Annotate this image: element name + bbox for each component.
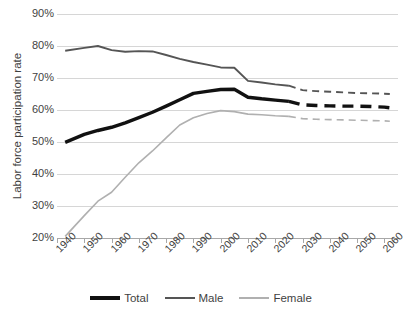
series-line-total — [65, 89, 289, 142]
legend-label: Female — [273, 292, 311, 304]
legend-swatch-male-icon — [165, 297, 195, 300]
plot-area — [57, 14, 398, 238]
y-axis-tick-label: 50% — [20, 136, 54, 147]
legend-swatch-female-icon — [239, 297, 269, 299]
series-projection-female — [289, 116, 390, 121]
y-axis-tick-label: 40% — [20, 168, 54, 179]
y-axis-tick-label: 80% — [20, 40, 54, 51]
legend-entry-male[interactable]: Male — [165, 292, 224, 304]
y-axis-tick-label: 90% — [20, 8, 54, 19]
series-projection-male — [289, 86, 390, 94]
series-projection-total — [289, 101, 390, 107]
chart-legend: TotalMaleFemale — [0, 292, 402, 304]
y-axis-tick-labels: 90%80%70%60%50%40%30%20% — [18, 0, 54, 250]
legend-entry-total[interactable]: Total — [90, 292, 148, 304]
y-axis-tick-label: 60% — [20, 104, 54, 115]
y-axis-tick-label: 70% — [20, 72, 54, 83]
series-line-male — [65, 46, 289, 86]
legend-swatch-total-icon — [90, 296, 120, 300]
legend-label: Male — [199, 292, 224, 304]
legend-label: Total — [124, 292, 148, 304]
y-axis-tick-label: 20% — [20, 232, 54, 243]
series-lines — [57, 14, 398, 238]
legend-entry-female[interactable]: Female — [239, 292, 311, 304]
y-axis-tick-label: 30% — [20, 200, 54, 211]
